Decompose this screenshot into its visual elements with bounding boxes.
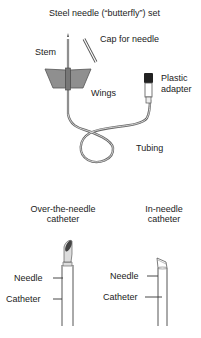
in-needle-needle-label: Needle bbox=[110, 271, 139, 281]
over-needle-needle-label: Needle bbox=[14, 273, 43, 283]
adapter-label-line2: adapter bbox=[161, 84, 192, 94]
over-needle-catheter-label: Catheter bbox=[6, 294, 41, 304]
needle-cap-icon bbox=[84, 39, 96, 62]
stem-label: Stem bbox=[35, 47, 56, 57]
butterfly-set-title: Steel needle (“butterfly”) set bbox=[49, 8, 160, 18]
adapter-label-line1: Plastic bbox=[161, 73, 188, 83]
over-the-needle-title-line2: catheter bbox=[22, 214, 104, 224]
wings-icon bbox=[45, 68, 91, 90]
cap-label: Cap for needle bbox=[100, 34, 159, 44]
over-the-needle-catheter-icon bbox=[53, 240, 73, 326]
in-needle-catheter-label: Catheter bbox=[103, 292, 138, 302]
plastic-adapter-icon bbox=[144, 73, 153, 103]
illustration bbox=[0, 0, 201, 338]
in-needle-catheter-icon bbox=[145, 258, 167, 326]
wings-label: Wings bbox=[91, 88, 116, 98]
over-the-needle-title-line1: Over-the-needle bbox=[22, 204, 104, 214]
in-needle-title-line2: catheter bbox=[134, 214, 194, 224]
in-needle-title-line1: In-needle bbox=[134, 204, 194, 214]
tubing-label: Tubing bbox=[136, 143, 163, 153]
